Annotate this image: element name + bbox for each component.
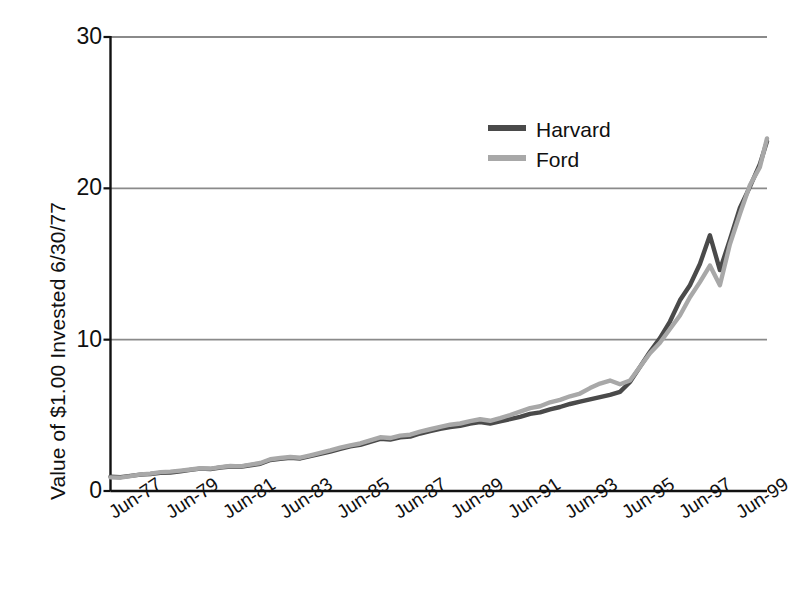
- investment-growth-chart: Value of $1.00 Invested 6/30/77 0102030 …: [0, 0, 805, 592]
- series-line-ford: [111, 138, 768, 477]
- y-tick-label: 0: [42, 477, 102, 504]
- y-tick-label: 30: [42, 23, 102, 50]
- legend-swatch-harvard: [488, 125, 526, 131]
- axis-lines: [104, 36, 768, 491]
- y-axis-tick-labels: 0102030: [40, 0, 102, 592]
- legend-label-ford: Ford: [536, 148, 579, 172]
- y-tick-label: 10: [42, 326, 102, 353]
- data-series-group: [111, 138, 768, 477]
- y-tick-label: 20: [42, 174, 102, 201]
- legend-label-harvard: Harvard: [536, 118, 611, 142]
- legend-swatch-ford: [488, 155, 526, 161]
- gridlines: [111, 37, 768, 340]
